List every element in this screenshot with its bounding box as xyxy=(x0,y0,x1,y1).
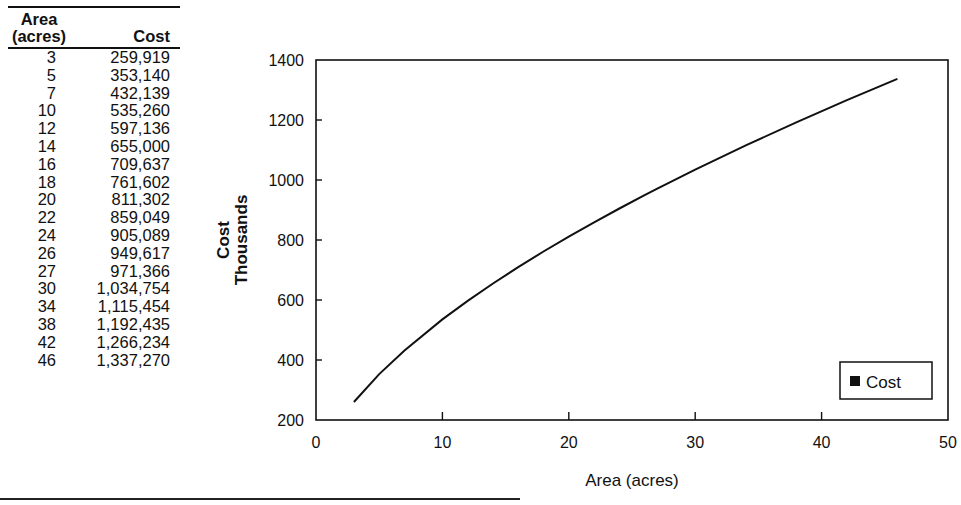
y-tick-label: 400 xyxy=(277,352,304,369)
x-tick-label: 10 xyxy=(434,434,452,451)
y-tick-label: 200 xyxy=(277,412,304,429)
x-tick-label: 0 xyxy=(312,434,321,451)
x-tick-label: 30 xyxy=(686,434,704,451)
x-tick-label: 20 xyxy=(560,434,578,451)
legend-label: Cost xyxy=(866,373,901,392)
legend: Cost xyxy=(840,362,932,399)
y-tick-label: 800 xyxy=(277,232,304,249)
y-tick-label: 1000 xyxy=(268,172,304,189)
y-tick-label: 1200 xyxy=(268,112,304,129)
y-axis-title-line2: Thousands xyxy=(232,195,251,286)
y-axis-title-line1: Cost xyxy=(214,221,233,259)
x-tick-label: 40 xyxy=(813,434,831,451)
x-tick-label: 50 xyxy=(939,434,957,451)
cost-line xyxy=(354,79,898,402)
x-tick-labels: 01020304050 xyxy=(312,434,957,451)
x-axis-title: Area (acres) xyxy=(585,471,679,490)
y-tick-label: 1400 xyxy=(268,52,304,69)
y-tick-labels: 200400600800100012001400 xyxy=(268,52,304,429)
y-axis-title: Cost Thousands xyxy=(214,195,251,286)
y-tick-label: 600 xyxy=(277,292,304,309)
legend-swatch-icon xyxy=(850,376,860,386)
cost-chart: 200400600800100012001400 01020304050 Cos… xyxy=(0,0,961,505)
